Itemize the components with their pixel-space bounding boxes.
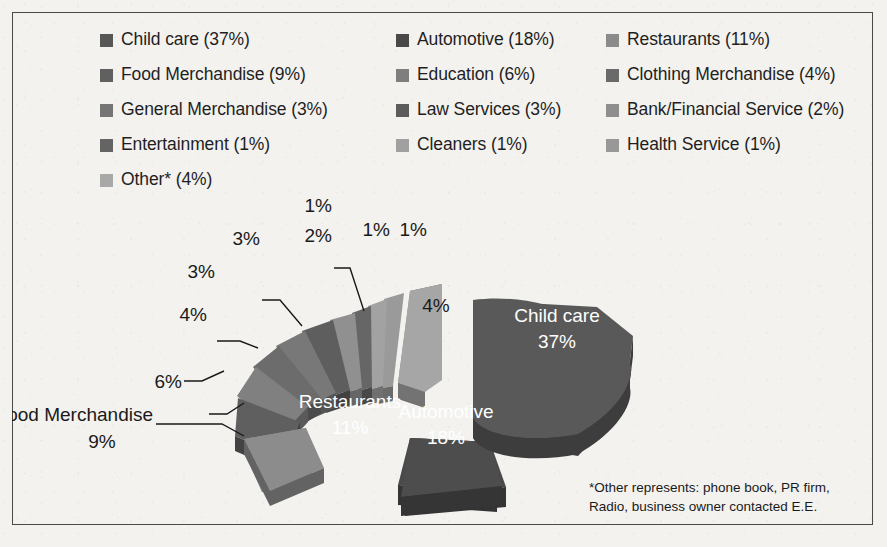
legend-row: Other* (4%) bbox=[100, 162, 870, 197]
legend-row: Entertainment (1%) Cleaners (1%) Health … bbox=[100, 127, 870, 162]
legend-label: Child care (37%) bbox=[121, 29, 250, 50]
legend-swatch-icon bbox=[606, 34, 619, 47]
pie-label-general-value: 3% bbox=[188, 261, 216, 282]
legend-item-entertainment[interactable]: Entertainment (1%) bbox=[100, 134, 396, 155]
legend-label: Other* (4%) bbox=[121, 169, 212, 190]
pie-label-automotive-name: Automotive bbox=[398, 401, 493, 422]
legend-swatch-icon bbox=[100, 104, 113, 117]
legend-label: General Merchandise (3%) bbox=[121, 99, 328, 120]
legend-label: Cleaners (1%) bbox=[417, 134, 528, 155]
pie-label-entertainment-value: 1% bbox=[305, 196, 333, 216]
legend-row: Child care (37%) Automotive (18%) Restau… bbox=[100, 22, 870, 57]
pie-chart-svg: Child care 37% Automotive 18% Restaurant… bbox=[12, 196, 873, 525]
chart-legend: Child care (37%) Automotive (18%) Restau… bbox=[100, 22, 870, 197]
legend-label: Restaurants (11%) bbox=[627, 29, 770, 50]
legend-item-child-care[interactable]: Child care (37%) bbox=[100, 29, 396, 50]
pie-label-health-value: 1% bbox=[400, 219, 428, 240]
footnote-line-2: Radio, business owner contacted E.E. bbox=[589, 497, 857, 517]
legend-item-other[interactable]: Other* (4%) bbox=[100, 169, 396, 190]
legend-item-law-services[interactable]: Law Services (3%) bbox=[396, 99, 606, 120]
leader-line-food-merchandise bbox=[156, 424, 244, 436]
legend-label: Food Merchandise (9%) bbox=[121, 64, 306, 85]
pie-label-food-merchandise-value: 9% bbox=[88, 431, 116, 452]
legend-label: Entertainment (1%) bbox=[121, 134, 270, 155]
pie-label-law-value: 3% bbox=[233, 228, 261, 249]
legend-item-education[interactable]: Education (6%) bbox=[396, 64, 606, 85]
legend-label: Clothing Merchandise (4%) bbox=[627, 64, 836, 85]
pie-label-education-value: 6% bbox=[155, 371, 183, 392]
legend-label: Education (6%) bbox=[417, 64, 535, 85]
legend-item-bank-financial-service[interactable]: Bank/Financial Service (2%) bbox=[606, 99, 870, 120]
pie-label-clothing-value: 4% bbox=[180, 304, 208, 325]
legend-item-automotive[interactable]: Automotive (18%) bbox=[396, 29, 606, 50]
legend-swatch-icon bbox=[606, 69, 619, 82]
chart-page: Child care (37%) Automotive (18%) Restau… bbox=[0, 0, 887, 547]
legend-swatch-icon bbox=[100, 34, 113, 47]
legend-label: Law Services (3%) bbox=[417, 99, 561, 120]
pie-label-automotive-value: 18% bbox=[427, 427, 465, 448]
legend-item-cleaners[interactable]: Cleaners (1%) bbox=[396, 134, 606, 155]
legend-swatch-icon bbox=[396, 69, 409, 82]
legend-row: General Merchandise (3%) Law Services (3… bbox=[100, 92, 870, 127]
legend-item-restaurants[interactable]: Restaurants (11%) bbox=[606, 29, 870, 50]
leader-line-general bbox=[217, 341, 258, 348]
legend-label: Automotive (18%) bbox=[417, 29, 555, 50]
pie-label-bank-value: 2% bbox=[305, 225, 333, 246]
leader-line-law bbox=[262, 300, 302, 326]
pie-label-cleaners-value: 1% bbox=[363, 219, 391, 240]
pie-chart: Child care 37% Automotive 18% Restaurant… bbox=[12, 196, 873, 525]
footnote: *Other represents: phone book, PR firm, … bbox=[589, 478, 857, 517]
legend-item-food-merchandise[interactable]: Food Merchandise (9%) bbox=[100, 64, 396, 85]
pie-label-restaurants-value: 11% bbox=[332, 417, 369, 438]
legend-swatch-icon bbox=[396, 104, 409, 117]
footnote-line-1: *Other represents: phone book, PR firm, bbox=[589, 478, 857, 498]
legend-item-clothing-merchandise[interactable]: Clothing Merchandise (4%) bbox=[606, 64, 870, 85]
pie-label-child-care-name: Child care bbox=[514, 305, 600, 326]
pie-label-restaurants-name: Restaurants bbox=[299, 391, 401, 412]
legend-item-general-merchandise[interactable]: General Merchandise (3%) bbox=[100, 99, 396, 120]
legend-label: Bank/Financial Service (2%) bbox=[627, 99, 844, 120]
pie-label-food-merchandise-name: Food Merchandise bbox=[12, 404, 153, 425]
legend-row: Food Merchandise (9%) Education (6%) Clo… bbox=[100, 57, 870, 92]
pie-label-other-value: 4% bbox=[422, 295, 450, 316]
legend-swatch-icon bbox=[100, 139, 113, 152]
legend-swatch-icon bbox=[100, 69, 113, 82]
leader-line-education bbox=[184, 371, 224, 381]
legend-swatch-icon bbox=[606, 139, 619, 152]
pie-slice-restaurants[interactable] bbox=[244, 428, 324, 506]
legend-swatch-icon bbox=[100, 174, 113, 187]
legend-swatch-icon bbox=[606, 104, 619, 117]
legend-item-health-service[interactable]: Health Service (1%) bbox=[606, 134, 870, 155]
legend-label: Health Service (1%) bbox=[627, 134, 781, 155]
leader-line-entertainment bbox=[334, 268, 364, 311]
legend-swatch-icon bbox=[396, 139, 409, 152]
legend-swatch-icon bbox=[396, 34, 409, 47]
pie-label-child-care-value: 37% bbox=[538, 331, 576, 352]
